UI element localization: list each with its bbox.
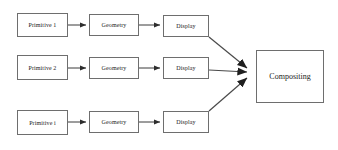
node-label-display-1: Display bbox=[176, 23, 195, 29]
pipeline-diagram: Primitive 1 Geometry Display Primitive 2… bbox=[0, 0, 338, 150]
node-display-2[interactable]: Display bbox=[163, 57, 209, 79]
arrow-display3-to-compositing bbox=[209, 78, 247, 111]
node-compositing[interactable]: Compositing bbox=[256, 50, 324, 103]
node-label-geometry-2: Geometry bbox=[102, 65, 127, 71]
node-geometry-1[interactable]: Geometry bbox=[89, 14, 139, 36]
node-label-display-2: Display bbox=[176, 65, 195, 71]
node-geometry-3[interactable]: Geometry bbox=[89, 111, 139, 133]
node-label-display-3: Display bbox=[176, 119, 195, 125]
node-primitive-1[interactable]: Primitive 1 bbox=[17, 13, 68, 37]
node-label-primitive-2: Primitive 2 bbox=[29, 65, 57, 71]
node-label-geometry-3: Geometry bbox=[102, 119, 127, 125]
node-primitive-2[interactable]: Primitive 2 bbox=[17, 55, 68, 80]
node-label-geometry-1: Geometry bbox=[102, 22, 127, 28]
node-primitive-3[interactable]: Primitive i bbox=[17, 110, 68, 135]
node-label-compositing: Compositing bbox=[269, 73, 310, 81]
node-display-1[interactable]: Display bbox=[163, 15, 209, 37]
node-label-primitive-3: Primitive i bbox=[29, 120, 56, 126]
arrow-display2-to-compositing bbox=[209, 70, 247, 72]
node-label-primitive-1: Primitive 1 bbox=[29, 22, 57, 28]
node-display-3[interactable]: Display bbox=[163, 111, 209, 133]
arrow-display1-to-compositing bbox=[209, 37, 247, 68]
node-geometry-2[interactable]: Geometry bbox=[89, 57, 139, 79]
